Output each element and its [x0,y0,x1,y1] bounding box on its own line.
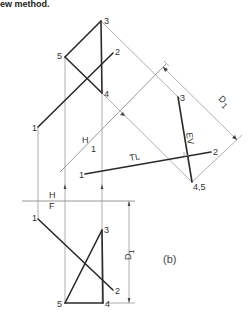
edge-1-2-tl [85,152,211,174]
arrow-icon [101,184,104,189]
edge-5-3 [65,230,102,303]
edge-3-4 [101,21,102,93]
arrow-icon [64,184,67,189]
fold-label-h: H [49,190,56,200]
dimension-d1-auxiliary: D 1 [163,61,242,182]
aux-point-label-3: 3 [180,93,185,103]
aux-point-label-1: 1 [79,170,84,180]
top-view: 3 5 4 2 1 [32,16,120,133]
point-label-5: 5 [57,51,62,61]
aux-point-label-2: 2 [213,147,218,157]
auxiliary-view-diagram: ew method. H 1 D 1 3 [0,0,252,316]
edge-view-label: EV [184,132,196,146]
fold-label-1: 1 [91,144,96,154]
header-text: ew method. [0,0,50,9]
edge-5-4 [65,57,102,93]
edge-4-3 [102,230,103,303]
arrow-icon [128,298,131,303]
figure-caption: (b) [163,253,176,265]
arrow-icon [128,201,131,206]
point-label-4: 4 [104,89,109,99]
dimension-subscript: 1 [127,249,136,254]
projection-arrows [64,184,104,189]
arrow-icon [120,112,125,116]
front-point-label-3: 3 [104,225,109,235]
true-length-label: TL [129,151,141,163]
point-label-2: 2 [115,47,120,57]
aux-projection-3 [101,21,180,99]
edge-3-5 [65,21,101,57]
front-point-label-2: 2 [115,286,120,296]
front-view: 3 1 2 5 4 [32,213,120,309]
vertical-projection-lines [38,57,102,303]
fold-label-h: H [82,135,89,145]
point-label-3: 3 [104,16,109,26]
front-point-label-5: 5 [57,299,62,309]
fold-line-h1 [60,64,166,172]
fold-label-f: F [49,201,55,211]
front-point-label-1: 1 [32,213,37,223]
front-point-label-4: 4 [105,299,110,309]
extension-line-45 [192,135,242,182]
aux-point-label-45: 4,5 [193,182,206,192]
point-label-1: 1 [32,123,37,133]
